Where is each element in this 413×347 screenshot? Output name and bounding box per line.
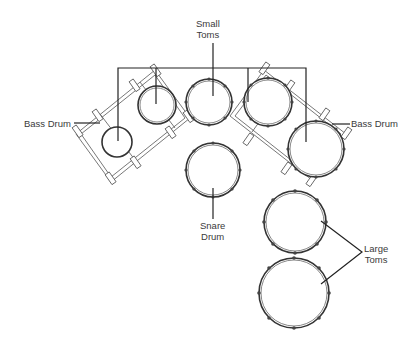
drum-large-tom-1 <box>262 189 328 255</box>
label-large-toms: Large Toms <box>364 243 388 265</box>
drum-right-bass-head <box>286 119 345 178</box>
label-large-toms-line2: Toms <box>364 254 388 265</box>
label-small-toms: Small Toms <box>196 18 220 40</box>
drum-small-tom-1 <box>138 86 176 124</box>
label-bass-drum-left: Bass Drum <box>24 118 71 129</box>
drum-large-tom-2 <box>257 256 331 330</box>
label-snare-line2: Drum <box>200 231 225 242</box>
drum-left-bass-head <box>102 127 132 157</box>
drum-small-tom-3 <box>242 76 293 127</box>
label-small-toms-line1: Small <box>196 18 220 29</box>
label-snare-line1: Snare <box>200 220 225 231</box>
label-snare-drum: Snare Drum <box>200 220 225 242</box>
drum-kit-diagram: Small Toms Bass Drum Bass Drum Snare Dru… <box>0 0 413 347</box>
label-bass-drum-right: Bass Drum <box>351 118 398 129</box>
diagram-canvas <box>0 0 413 347</box>
label-small-toms-line2: Toms <box>196 29 220 40</box>
left-bass-drum-shell <box>72 64 194 185</box>
label-large-toms-line1: Large <box>364 243 388 254</box>
